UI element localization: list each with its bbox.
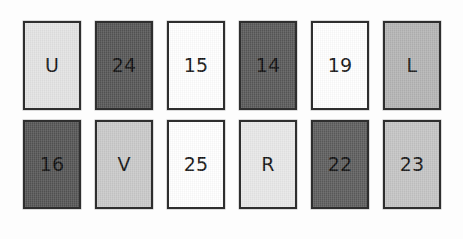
card-grid: U 24 15 14 19 L 16 V 25 R 22 (0, 0, 463, 239)
card-label: 19 (328, 56, 353, 75)
card[interactable]: 25 (167, 120, 225, 209)
card-label: 23 (400, 155, 425, 174)
card[interactable]: 24 (95, 21, 153, 110)
card[interactable]: 15 (167, 21, 225, 110)
card[interactable]: 14 (239, 21, 297, 110)
card[interactable]: 16 (23, 120, 81, 209)
card-label: 14 (256, 56, 281, 75)
card-row-top: U 24 15 14 19 L (0, 21, 463, 111)
card[interactable]: 19 (311, 21, 369, 110)
card[interactable]: V (95, 120, 153, 209)
card-label: 25 (184, 155, 209, 174)
card-label: U (45, 56, 59, 75)
card[interactable]: 22 (311, 120, 369, 209)
card[interactable]: R (239, 120, 297, 209)
card-label: V (117, 155, 130, 174)
card-label: L (407, 56, 418, 75)
card[interactable]: L (383, 21, 441, 110)
card-label: R (261, 155, 274, 174)
card-label: 22 (328, 155, 353, 174)
card-label: 24 (112, 56, 137, 75)
card-label: 16 (40, 155, 65, 174)
card[interactable]: 23 (383, 120, 441, 209)
card[interactable]: U (23, 21, 81, 110)
card-row-bottom: 16 V 25 R 22 23 (0, 120, 463, 210)
card-label: 15 (184, 56, 209, 75)
